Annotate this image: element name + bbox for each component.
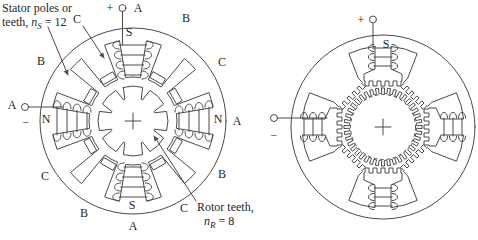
left-motor-pole-winding-mark (150, 72, 166, 85)
left-motor-coil-loop (145, 183, 151, 191)
phase-label-top-a: A (134, 1, 143, 15)
right-motor-coil-loop (458, 112, 465, 118)
right-motor-coil-loop (309, 136, 316, 142)
left-motor-pole-winding-mark (170, 138, 183, 154)
phase-c-leader-arrow (83, 26, 104, 58)
phase-label-upper-right-b: B (182, 11, 190, 25)
left-motor-coil-loop (175, 130, 183, 136)
phase-label-right-upper-c: C (218, 55, 226, 69)
right-motor-coil-loop (318, 136, 325, 142)
pole-mark-s-bottom: S (129, 198, 136, 212)
right-motor-coil-loop (392, 184, 398, 191)
stator-note-line1: Stator poles or (2, 1, 72, 15)
right-motor-plus-label: + (358, 13, 365, 27)
stepper-motor-figure: Stator poles or teeth, nS = 12 Rotor tee… (0, 0, 478, 240)
right-motor-coil-loop (368, 62, 374, 69)
pole-mark-n-left: N (42, 112, 51, 126)
figure-canvas: Stator poles or teeth, nS = 12 Rotor tee… (0, 0, 478, 240)
left-motor-coil-loop (63, 102, 71, 108)
right-motor-coil-loop (449, 136, 456, 142)
right-motor-coil-loop (309, 112, 316, 118)
right-rotor-center-cross (375, 119, 391, 135)
left-motor-coil-loop (73, 132, 81, 138)
left-motor-coil-loop (142, 163, 148, 171)
left-motor-coil-loop (185, 104, 193, 110)
rotor-note-line1: Rotor teeth, (197, 200, 254, 214)
right-motor-coil-loop (392, 62, 398, 69)
left-motor-plus-label: + (107, 1, 114, 15)
right-motor-coil-loop (368, 202, 374, 209)
left-motor-coil-loop (118, 163, 124, 171)
left-motor-coil-loop (118, 71, 124, 79)
right-motor-left-terminal-icon (271, 115, 278, 122)
right-motor-coil-loop (392, 44, 398, 51)
left-motor-coil-loop (83, 106, 91, 112)
left-motor-pole-winding-mark (84, 138, 97, 154)
phase-label-lower-left-b: B (80, 206, 88, 220)
left-motor-pole-winding-mark (101, 72, 117, 85)
right-motor-coil-loop (392, 53, 398, 60)
left-motor-coil-loop (116, 173, 122, 181)
left-motor-coil-loop (114, 51, 120, 59)
pole-mark-s-top: S (126, 25, 133, 39)
left-motor-coil-loop (145, 51, 151, 59)
right-motor-coil-loop (300, 136, 307, 142)
right-motor-coil-loop (368, 184, 374, 191)
right-motor-coil-loop (392, 202, 398, 209)
left-motor-coil-loop (195, 133, 203, 139)
phase-label-top-left-c: C (73, 12, 81, 26)
left-motor-minus-label: − (23, 115, 30, 129)
right-motor-coil-loop (458, 136, 465, 142)
left-motor-coil-loop (195, 102, 203, 108)
right-motor-coil-loop (440, 136, 447, 142)
left-motor-coil-loop (116, 61, 122, 69)
pole-mark-n-right: N (214, 112, 223, 126)
phase-label-upper-left-b: B (37, 54, 45, 68)
left-motor-coil-loop (142, 71, 148, 79)
left-motor-top-terminal-icon (119, 5, 126, 12)
right-motor-coil-loop (440, 112, 447, 118)
phase-label-bottom-right-c: C (180, 201, 188, 215)
phase-label-bottom-a: A (129, 219, 138, 233)
phase-label-lower-right-b: B (218, 167, 226, 181)
left-motor-coil-loop (175, 106, 183, 112)
left-motor-coil-loop (144, 61, 150, 69)
stator-note-line2: teeth, nS = 12 (2, 15, 67, 31)
rotor-note-line2: nR = 8 (204, 214, 234, 230)
left-motor-coil-loop (114, 183, 120, 191)
right-motor-pole-mark-s: S (383, 37, 390, 51)
right-motor-coil-loop (300, 112, 307, 118)
left-motor-coil-loop (73, 104, 81, 110)
left-motor-drawing (40, 28, 226, 214)
left-motor-pole-winding-mark (150, 158, 166, 171)
phase-label-left-a: A (8, 98, 17, 112)
left-motor-pole-winding-mark (84, 89, 97, 105)
left-motor-coil-loop (63, 133, 71, 139)
left-rotor-center-cross (125, 113, 141, 129)
right-motor-coil-loop (318, 112, 325, 118)
right-motor-coil-loop (368, 53, 374, 60)
right-motor-coil-loop (392, 193, 398, 200)
left-motor-pole-winding-mark (170, 89, 183, 105)
left-motor-coil-loop (83, 130, 91, 136)
right-motor-drawing (291, 35, 475, 219)
left-motor-left-terminal-icon (22, 104, 29, 111)
right-motor-coil-loop (449, 112, 456, 118)
left-motor-coil-loop (144, 173, 150, 181)
phase-label-left-lower-c: C (41, 169, 49, 183)
right-motor-coil-loop (368, 193, 374, 200)
stator-note-leader-arrow (48, 27, 68, 75)
rotor-note-leader-arrow (154, 136, 196, 201)
right-motor-minus-label: − (271, 128, 278, 142)
left-motor-coil-loop (185, 132, 193, 138)
left-motor-pole-winding-mark (101, 158, 117, 171)
phase-label-right-a: A (233, 114, 242, 128)
right-motor-top-terminal-icon (370, 16, 377, 23)
